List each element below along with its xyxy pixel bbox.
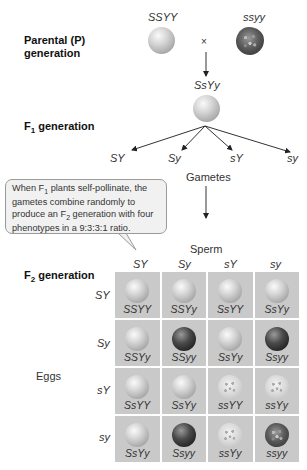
pea-yellow-round-icon	[125, 279, 149, 303]
gamete-arrow-sY	[205, 126, 232, 150]
f1-label-rest: generation	[35, 120, 94, 132]
punnett-cell: Ssyy	[255, 320, 300, 366]
pea-yellow-round-icon	[218, 327, 242, 351]
gamete-SY: SY	[110, 152, 125, 164]
pea-green-round-icon	[172, 327, 196, 351]
cell-genotype: SsYY	[208, 303, 253, 315]
pea-yellow-round-icon	[172, 375, 196, 399]
pea-green-wrinkled-icon	[265, 423, 289, 447]
gamete-sY: sY	[230, 152, 243, 164]
punnett-cell: SsYy	[208, 320, 253, 366]
f1-genotype: SsYy	[194, 79, 220, 91]
gametes-label: Gametes	[186, 171, 231, 183]
parent2-genotype: ssyy	[243, 11, 265, 23]
callout-line2: gametes combine randomly to	[12, 197, 160, 208]
punnett-cell: ssYy	[208, 416, 253, 462]
callout-line3: produce an F2 generation with four	[12, 209, 160, 223]
egg-SY: SY	[95, 289, 110, 301]
pea-yellow-round-icon	[172, 279, 196, 303]
callout-line4: phenotypes in a 9:3:3:1 ratio.	[12, 223, 160, 234]
f2-generation-label: F2 generation	[24, 269, 94, 286]
gamete-sy: sy	[287, 152, 298, 164]
cell-genotype: SsYy	[255, 303, 300, 315]
punnett-cell: SsYY	[208, 272, 253, 318]
pea-yellow-round-icon	[125, 375, 149, 399]
cross-symbol: ×	[201, 36, 207, 47]
punnett-cell: SSYy	[162, 272, 207, 318]
explanation-callout: When F1 plants self-pollinate, the gamet…	[5, 179, 167, 234]
pea-yellow-wrinkled-icon	[218, 375, 242, 399]
cell-genotype: SsYy	[162, 399, 207, 411]
cell-genotype: SsYy	[208, 351, 253, 363]
sperm-label: Sperm	[190, 243, 222, 255]
gamete-arrow-sy	[205, 126, 290, 152]
punnett-cell: SsYy	[255, 272, 300, 318]
f2-label-rest: generation	[35, 269, 94, 281]
gamete-Sy: Sy	[168, 152, 181, 164]
cell-genotype: SSYy	[115, 351, 160, 363]
sperm-Sy: Sy	[178, 258, 191, 270]
pea-yellow-wrinkled-icon	[218, 423, 242, 447]
pea-yellow-round-icon	[125, 423, 149, 447]
punnett-cell: SsYY	[115, 368, 160, 414]
pea-yellow-round-icon	[265, 279, 289, 303]
cell-genotype: ssYY	[208, 399, 253, 411]
cell-genotype: ssYy	[208, 447, 253, 459]
callout-line1: When F1 plants self-pollinate, the	[12, 183, 160, 197]
egg-Sy: Sy	[97, 337, 110, 349]
punnett-square: SSYYSSYySsYYSsYySSYySSyySsYySsyySsYYSsYy…	[115, 272, 299, 462]
parental-label-line1: Parental (P)	[24, 34, 85, 47]
pea-yellow-round-icon	[218, 279, 242, 303]
cell-genotype: Ssyy	[255, 351, 300, 363]
eggs-label: Eggs	[36, 370, 61, 382]
punnett-cell: ssYY	[208, 368, 253, 414]
punnett-cell: Ssyy	[162, 416, 207, 462]
punnett-cell: SSYY	[115, 272, 160, 318]
pea-green-round-icon	[172, 423, 196, 447]
punnett-cell: ssyy	[255, 416, 300, 462]
punnett-cell: SSyy	[162, 320, 207, 366]
pea-yellow-round-icon	[125, 327, 149, 351]
pea-yellow-round-icon	[148, 27, 175, 54]
cell-genotype: SSyy	[162, 351, 207, 363]
cell-genotype: ssyy	[255, 447, 300, 459]
parental-generation-label: Parental (P) generation	[24, 34, 85, 60]
f2-label-main: F	[24, 269, 31, 281]
f1-label-main: F	[24, 120, 31, 132]
callout-tail	[118, 233, 136, 250]
cell-genotype: SsYY	[115, 399, 160, 411]
egg-sY: sY	[97, 384, 110, 396]
sperm-sY: sY	[224, 258, 237, 270]
pea-yellow-wrinkled-icon	[265, 375, 289, 399]
f1-generation-label: F1 generation	[24, 120, 94, 137]
punnett-cell: ssYy	[255, 368, 300, 414]
cell-genotype: ssYy	[255, 399, 300, 411]
punnett-cell: SsYy	[115, 416, 160, 462]
sperm-SY: SY	[133, 258, 148, 270]
parent1-genotype: SSYY	[148, 11, 177, 23]
cell-genotype: Ssyy	[162, 447, 207, 459]
cell-genotype: SsYy	[115, 447, 160, 459]
cell-genotype: SSYy	[162, 303, 207, 315]
punnett-cell: SsYy	[162, 368, 207, 414]
pea-yellow-round-icon	[193, 95, 220, 122]
parental-label-line2: generation	[24, 47, 85, 60]
cell-genotype: SSYY	[115, 303, 160, 315]
punnett-cell: SSYy	[115, 320, 160, 366]
pea-green-round-icon	[265, 327, 289, 351]
egg-sy: sy	[99, 431, 110, 443]
pea-green-wrinkled-icon	[236, 27, 264, 55]
sperm-sy: sy	[270, 258, 281, 270]
